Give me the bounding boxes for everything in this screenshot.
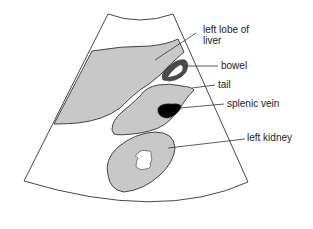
label-tail: tail: [218, 79, 231, 90]
label-left-kidney: left kidney: [247, 132, 292, 143]
renal-sinus: [136, 150, 152, 169]
label-left-lobe-of-liver-line2: liver: [203, 35, 222, 46]
label-splenic-vein: splenic vein: [227, 98, 279, 109]
ultrasound-diagram: left lobe of liver bowel tail splenic ve…: [0, 0, 313, 229]
label-bowel: bowel: [221, 60, 247, 71]
label-left-lobe-of-liver-line1: left lobe of: [203, 24, 249, 35]
